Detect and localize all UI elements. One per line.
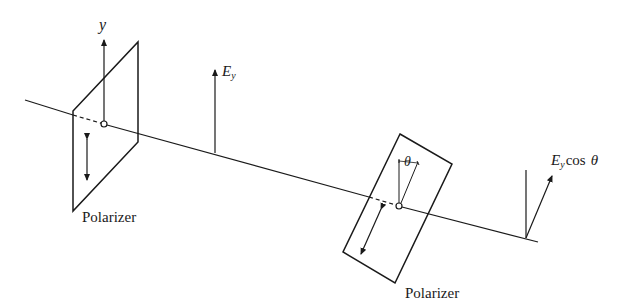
polarizer-1-label: Polarizer: [82, 209, 136, 225]
ey-cos-theta-arrow: [526, 176, 552, 238]
transmission-axis-2-icon: [361, 209, 381, 254]
origin-point-2: [396, 203, 402, 209]
polarizer-2-label: Polarizer: [405, 285, 459, 301]
polarizer-1: [73, 40, 138, 211]
ey-cos-theta-label: Eycosθ: [550, 152, 599, 170]
ey-label: Ey: [221, 63, 236, 81]
polarizer-2: [343, 134, 452, 283]
origin-point-1: [101, 121, 107, 127]
polarization-diagram: y Polarizer Ey θ Polarizer Eycosθ: [0, 0, 630, 305]
y-axis-label: y: [97, 16, 107, 34]
theta-angle-label: θ: [404, 154, 411, 169]
